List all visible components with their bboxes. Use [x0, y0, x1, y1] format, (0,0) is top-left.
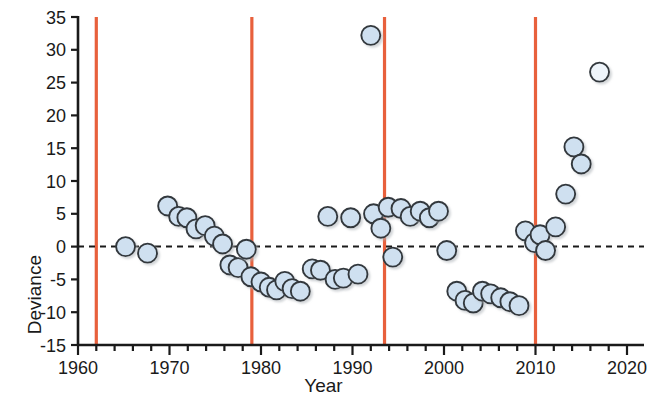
y-tick-label: 5 — [56, 204, 66, 224]
x-axis-label: Year — [0, 375, 647, 397]
y-tick-label: 30 — [46, 40, 66, 60]
data-point — [318, 207, 337, 226]
y-tick-label: 20 — [46, 106, 66, 126]
data-point — [572, 154, 591, 173]
scatter-plot: -15-10-505101520253035196019701980199020… — [0, 0, 647, 402]
y-tick-label: 0 — [56, 237, 66, 257]
data-point — [213, 234, 232, 253]
data-point — [590, 63, 609, 82]
y-axis-label-wrapper: Deviance — [0, 0, 30, 360]
data-point — [429, 202, 448, 221]
data-point — [237, 240, 256, 259]
data-point — [116, 237, 135, 256]
data-point — [510, 296, 529, 315]
y-axis-label: Deviance — [24, 255, 46, 334]
y-tick-label: 35 — [46, 8, 66, 28]
data-point — [361, 26, 380, 45]
data-point — [437, 241, 456, 260]
data-point — [383, 248, 402, 267]
data-point — [341, 208, 360, 227]
y-tick-label: -15 — [40, 336, 66, 356]
chart-figure: -15-10-505101520253035196019701980199020… — [0, 0, 647, 402]
y-tick-label: 15 — [46, 139, 66, 159]
y-tick-label: -5 — [50, 270, 66, 290]
data-point — [348, 265, 367, 284]
data-point — [138, 244, 157, 263]
y-tick-label: 25 — [46, 73, 66, 93]
data-point — [536, 241, 555, 260]
axes-group — [71, 16, 644, 355]
data-point — [556, 185, 575, 204]
y-tick-label: 10 — [46, 172, 66, 192]
data-point — [546, 217, 565, 236]
data-point — [371, 219, 390, 238]
data-point — [291, 282, 310, 301]
